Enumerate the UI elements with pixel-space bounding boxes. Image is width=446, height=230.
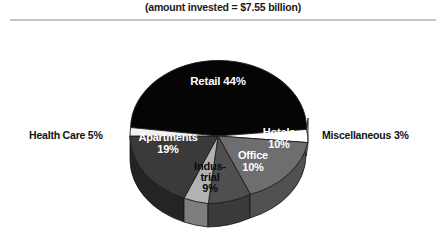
pie-slice-retail[interactable] xyxy=(131,60,307,136)
slice-label-miscellaneous: Miscellaneous 3% xyxy=(322,129,409,141)
header-divider xyxy=(10,19,436,21)
slice-label-health-care: Health Care 5% xyxy=(29,129,103,141)
chart-area: Retail 44% Hotels 10% Office 10% Indus- … xyxy=(0,24,446,230)
pie-chart-screenshot: (amount invested = $7.55 billion) xyxy=(0,0,446,230)
chart-subtitle: (amount invested = $7.55 billion) xyxy=(0,1,446,13)
pie-chart-graphic xyxy=(122,32,322,230)
